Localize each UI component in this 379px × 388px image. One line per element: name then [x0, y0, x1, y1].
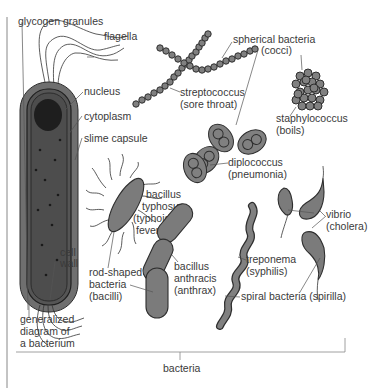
coccus-cell: [298, 102, 306, 110]
coccus-cell: [199, 67, 205, 73]
flagellum: [108, 158, 112, 180]
coccus-cell: [306, 102, 314, 110]
leader-spherical-staph: [301, 55, 302, 70]
coccus-cell: [157, 45, 163, 51]
caption-2: diagram of: [20, 325, 70, 337]
coccus-cell: [223, 58, 229, 64]
label-anthracis-3: (anthrax): [174, 284, 216, 296]
coccus-cell: [252, 46, 258, 52]
coccus-cell: [314, 102, 322, 110]
flagellum: [58, 53, 118, 87]
coccus-cell: [211, 64, 217, 70]
label-anthracis-1: bacillus: [174, 260, 209, 272]
label-spiral: spiral bacteria (spirilla): [241, 290, 346, 302]
label-cellwall-2: wall: [59, 257, 78, 269]
label-cytoplasm: cytoplasm: [84, 110, 132, 122]
coccus-cell: [292, 80, 300, 88]
caption-1: generalized: [20, 313, 74, 325]
coccus-cell: [169, 52, 175, 58]
flagellum: [118, 232, 124, 254]
coccus-cell: [181, 60, 187, 66]
coccus-cell: [241, 51, 247, 57]
flagellum: [90, 220, 108, 226]
coccus-cell: [151, 90, 157, 96]
coccus-cell: [308, 94, 316, 102]
coccus-cell: [139, 97, 145, 103]
staphylococcus-cluster: [292, 69, 328, 110]
coccus-cell: [235, 53, 241, 59]
label-staph-2: (boils): [276, 124, 305, 136]
label-nucleus: nucleus: [84, 85, 120, 97]
label-rod-2: bacteria: [89, 278, 127, 290]
label-treponema-2: (syphilis): [246, 265, 287, 277]
bacteria-title: bacteria: [163, 362, 201, 374]
coccus-cell: [229, 56, 235, 62]
coccus-cell: [205, 31, 211, 37]
vibrio-flagellum: [281, 214, 288, 238]
label-spherical-2: (cocci): [261, 44, 292, 56]
label-diplo-2: (pneumonia): [228, 168, 287, 180]
label-strepto-2: (sore throat): [180, 98, 237, 110]
diplococcus-cell: [234, 125, 271, 159]
label-rod-3: (bacilli): [89, 290, 122, 302]
flagellum: [86, 190, 104, 196]
leader-spherical-strepto: [222, 42, 232, 58]
coccus-cell: [175, 56, 181, 62]
coccus-cell: [310, 84, 318, 92]
label-staph-1: staphylococcus: [276, 112, 348, 124]
vibrio-cell: [302, 232, 325, 280]
nucleus-shape: [34, 99, 62, 131]
label-flagella: flagella: [104, 30, 137, 42]
label-rod-1: rod-shaped: [89, 266, 142, 278]
flagellum: [53, 44, 124, 87]
coccus-cell: [187, 63, 193, 69]
coccus-cell: [217, 61, 223, 67]
label-glycogen: glycogen granules: [18, 15, 103, 27]
label-vibrio-2: (cholera): [326, 220, 367, 232]
coccus-cell: [320, 88, 328, 96]
coccus-cell: [302, 76, 310, 84]
label-slime: slime capsule: [84, 132, 148, 144]
leader-vibrio-b: [320, 211, 325, 216]
label-typhosus-1: bacillus: [146, 188, 181, 200]
vibrio-cell: [278, 188, 292, 215]
coccus-cell: [193, 66, 199, 72]
coccus-cell: [133, 101, 139, 107]
label-vibrio-1: vibrio: [326, 208, 351, 220]
label-strepto-1: streptococcus: [180, 86, 245, 98]
label-diplo-1: diplococcus: [228, 156, 283, 168]
coccus-cell: [205, 66, 211, 72]
coccus-cell: [163, 48, 169, 54]
leader-strepto: [170, 88, 180, 92]
flagellum: [130, 162, 138, 178]
label-treponema-1: treponema: [246, 253, 296, 265]
coccus-cell: [145, 94, 151, 100]
caption-3: a bacterium: [20, 337, 75, 349]
flagellum: [46, 36, 120, 87]
vibrio-group: [278, 166, 325, 300]
leader-vibrio-c: [312, 216, 326, 228]
coccus-cell: [294, 90, 302, 98]
label-anthracis-2: anthracis: [174, 272, 217, 284]
flagellum: [120, 154, 123, 176]
flagellum: [92, 168, 106, 188]
bacteria-diagram: bacteria glycogen granules flagella nucl…: [0, 0, 379, 388]
flagellum: [86, 208, 104, 210]
